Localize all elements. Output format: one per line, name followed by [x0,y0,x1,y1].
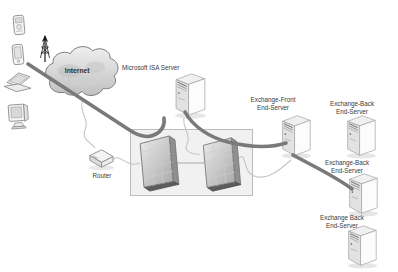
exchange-front-label: Exchange-Front End-Server [240,96,306,112]
internet-cloud-icon: Internet [41,42,123,102]
exchange-back-bottom-server-icon [344,223,379,269]
exchange-back-bottom-label: Exchange Back End-Server [310,214,374,230]
exchange-back-top-label: Exchange-Back End-Server [320,100,384,116]
desktop-monitor-icon [7,101,30,131]
network-diagram: Internet Microsoft ISA Server Router Exc… [0,0,398,272]
laptop-icon [3,70,32,95]
isa-server-icon [171,71,208,119]
exchange-front-server-icon [278,111,313,161]
mobile-phone-icon [9,13,28,37]
isa-server-label: Microsoft ISA Server [122,64,206,72]
firewall-left-icon [138,134,181,194]
cloud-to-router-line [82,99,95,148]
internet-label: Internet [65,67,91,74]
exchange-back-middle-server-icon [345,171,380,217]
exchange-back-middle-label: Exchange-Back End-Server [315,159,379,175]
exchange-back-top-server-icon [343,113,378,159]
router-label: Router [84,172,120,180]
pda-icon [9,43,26,66]
firewall-right-icon [201,136,243,194]
router-icon [86,145,117,172]
